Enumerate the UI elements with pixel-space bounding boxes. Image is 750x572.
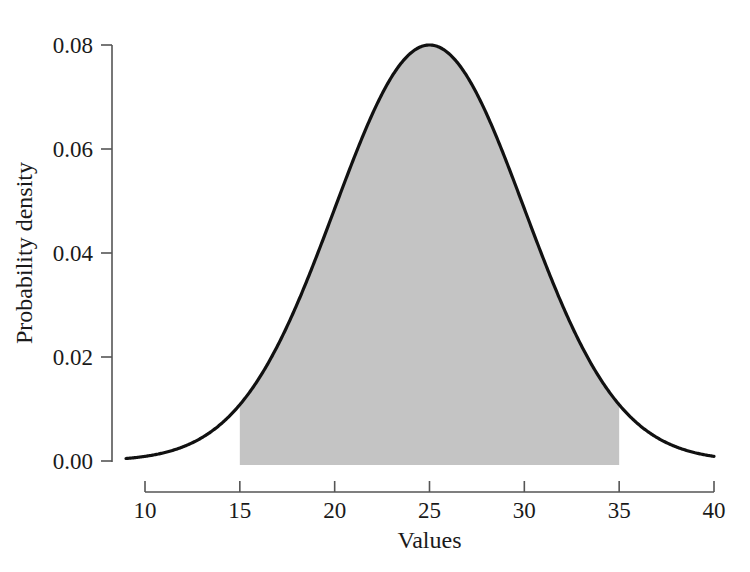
x-tick-label: 30 bbox=[513, 498, 536, 523]
x-tick-label: 20 bbox=[323, 498, 346, 523]
y-tick-label: 0.02 bbox=[53, 345, 93, 370]
x-tick-label: 40 bbox=[703, 498, 726, 523]
chart-figure: 0.000.020.040.060.08 10152025303540 Valu… bbox=[0, 0, 750, 572]
y-tick-label: 0.04 bbox=[53, 241, 94, 266]
x-axis-title: Values bbox=[398, 527, 462, 553]
probability-density-chart: 0.000.020.040.060.08 10152025303540 Valu… bbox=[0, 0, 750, 572]
x-tick-label: 10 bbox=[134, 498, 157, 523]
x-tick-label: 15 bbox=[228, 498, 251, 523]
y-axis-title: Probability density bbox=[11, 162, 37, 344]
y-tick-label: 0.08 bbox=[53, 33, 93, 58]
y-tick-label: 0.00 bbox=[53, 449, 93, 474]
x-tick-label: 25 bbox=[418, 498, 441, 523]
x-tick-label: 35 bbox=[608, 498, 631, 523]
y-tick-label: 0.06 bbox=[53, 137, 93, 162]
